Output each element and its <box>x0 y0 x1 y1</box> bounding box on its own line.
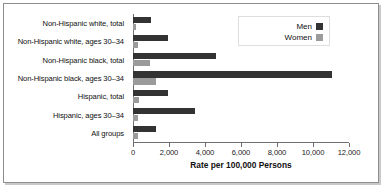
legend-entry-women: Women <box>285 33 323 42</box>
bar-men <box>133 90 168 96</box>
bar-men <box>133 126 156 132</box>
legend-entry-men: Men <box>296 22 323 31</box>
bar-men <box>133 17 151 23</box>
x-tick <box>277 143 278 147</box>
category-axis-labels: Non-Hispanic white, totalNon-Hispanic wh… <box>0 14 128 142</box>
chart-figure: Non-Hispanic white, totalNon-Hispanic wh… <box>0 0 382 192</box>
x-tick <box>241 143 242 147</box>
x-axis-title: Rate per 100,000 Persons <box>133 160 349 170</box>
x-tick-label: 6,000 <box>232 148 251 157</box>
bar-men <box>133 108 195 114</box>
x-tick <box>133 143 134 147</box>
bar-women <box>133 133 138 139</box>
bar-men <box>133 71 332 77</box>
chart-legend: Men Women <box>238 16 330 46</box>
x-tick <box>205 143 206 147</box>
x-tick-label: 8,000 <box>268 148 287 157</box>
bar-women <box>133 42 138 48</box>
x-tick-label: 0 <box>131 148 135 157</box>
category-label: Non-Hispanic white, total <box>43 19 125 28</box>
category-label: Hispanic, ages 30–34 <box>53 110 124 119</box>
x-tick-label: 12,000 <box>338 148 361 157</box>
x-tick-label: 10,000 <box>302 148 325 157</box>
bar-men <box>133 35 168 41</box>
bar-women <box>133 60 150 66</box>
category-label: Hispanic, total <box>78 92 124 101</box>
x-tick <box>313 143 314 147</box>
category-label: Non-Hispanic white, ages 30–34 <box>18 37 124 46</box>
bar-women <box>133 78 156 84</box>
x-tick-label: 4,000 <box>196 148 215 157</box>
bar-women <box>133 97 139 103</box>
x-tick-label: 2,000 <box>160 148 179 157</box>
category-label: Non-Hispanic black, ages 30–34 <box>18 74 124 83</box>
legend-label-men: Men <box>296 22 312 31</box>
category-label: Non-Hispanic black, total <box>43 55 125 64</box>
legend-swatch-women <box>316 34 323 41</box>
bar-men <box>133 53 216 59</box>
bar-women <box>133 115 138 121</box>
bar-women <box>133 24 136 30</box>
legend-label-women: Women <box>285 33 312 42</box>
category-label: All groups <box>91 128 124 137</box>
legend-swatch-men <box>316 23 323 30</box>
x-tick <box>169 143 170 147</box>
x-tick <box>349 143 350 147</box>
